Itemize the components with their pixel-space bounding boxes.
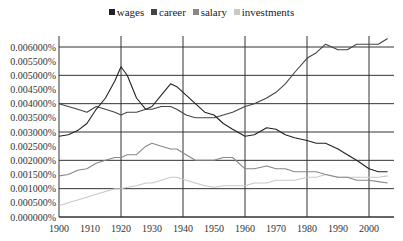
y-tick-label: 0.003000% bbox=[10, 127, 56, 138]
x-tick-label: 1970 bbox=[266, 223, 286, 234]
x-tick-label: 1950 bbox=[204, 223, 224, 234]
y-tick-label: 0.000500% bbox=[10, 197, 56, 208]
y-tick-label: 0.004500% bbox=[10, 84, 56, 95]
line-chart: 0.000000%0.000500%0.001000%0.001500%0.00… bbox=[0, 0, 403, 241]
y-tick-label: 0.000000% bbox=[10, 212, 56, 223]
x-tick-label: 1900 bbox=[49, 223, 69, 234]
y-tick-label: 0.004000% bbox=[10, 98, 56, 109]
y-tick-label: 0.002500% bbox=[10, 141, 56, 152]
y-tick-label: 0.001000% bbox=[10, 183, 56, 194]
x-tick-label: 1980 bbox=[297, 223, 317, 234]
series-line-career bbox=[59, 39, 388, 118]
data-lines bbox=[59, 39, 388, 206]
y-tick-label: 0.005500% bbox=[10, 56, 56, 67]
series-line-investments bbox=[59, 175, 388, 206]
y-tick-label: 0.005000% bbox=[10, 70, 56, 81]
y-axis-ticks: 0.000000%0.000500%0.001000%0.001500%0.00… bbox=[10, 42, 56, 223]
x-tick-label: 1990 bbox=[328, 223, 348, 234]
x-tick-label: 1920 bbox=[111, 223, 131, 234]
x-tick-label: 1930 bbox=[142, 223, 162, 234]
x-tick-label: 1910 bbox=[80, 223, 100, 234]
series-line-wages bbox=[59, 67, 388, 172]
y-tick-label: 0.001500% bbox=[10, 169, 56, 180]
y-tick-label: 0.003500% bbox=[10, 112, 56, 123]
x-axis-ticks: 1900191019201930194019501960197019801990… bbox=[49, 223, 379, 234]
y-tick-label: 0.006000% bbox=[10, 42, 56, 53]
x-tick-label: 2000 bbox=[359, 223, 379, 234]
x-tick-label: 1940 bbox=[173, 223, 193, 234]
x-tick-label: 1960 bbox=[235, 223, 255, 234]
y-tick-label: 0.002000% bbox=[10, 155, 56, 166]
